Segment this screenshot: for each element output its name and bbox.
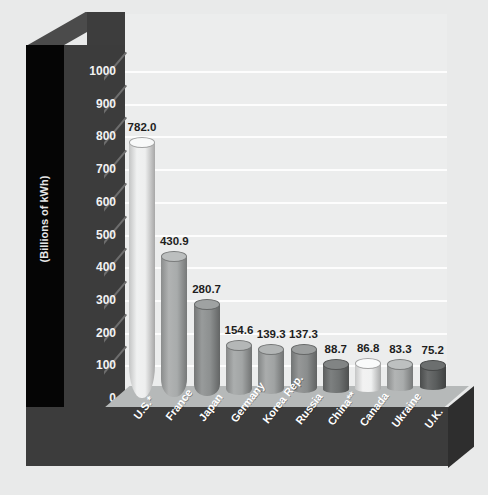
bar-ukraine[interactable]: 83.3 xyxy=(387,364,413,391)
bar-value-label: 280.7 xyxy=(192,283,221,295)
bar-body xyxy=(226,345,252,396)
gridline xyxy=(125,202,447,204)
y-tick-label: 800 xyxy=(64,129,122,143)
bar-top-ellipse xyxy=(258,344,284,355)
y-tick-label: 200 xyxy=(64,326,122,340)
y-tick-label: 1000 xyxy=(64,64,122,78)
bar-top-ellipse xyxy=(323,359,349,370)
bar-body xyxy=(129,142,155,398)
y-tick-label: 700 xyxy=(64,162,122,176)
y-tick-label: 900 xyxy=(64,97,122,111)
bar-value-label: 137.3 xyxy=(289,328,318,340)
bar-japan[interactable]: 280.7 xyxy=(194,304,220,396)
y-tick-label: 500 xyxy=(64,228,122,242)
chart-page: (Billions of kWh) 1000900800700600500400… xyxy=(0,0,488,495)
bar-value-label: 430.9 xyxy=(160,235,189,247)
bar-value-label: 154.6 xyxy=(225,324,254,336)
gridline xyxy=(125,169,447,171)
bar-value-label: 139.3 xyxy=(257,328,286,340)
bar-uk[interactable]: 75.2 xyxy=(420,365,446,390)
bar-value-label: 88.7 xyxy=(325,343,347,355)
bar-top-ellipse xyxy=(226,340,252,351)
gridline xyxy=(125,104,447,106)
bar-value-label: 86.8 xyxy=(357,342,379,354)
y-tick-label: 600 xyxy=(64,195,122,209)
bar-value-label: 75.2 xyxy=(421,344,443,356)
bar-top-ellipse xyxy=(291,344,317,355)
y-tick-label: 100 xyxy=(64,358,122,372)
pillar-top-face-inner xyxy=(87,12,125,46)
bar-us[interactable]: 782.0 xyxy=(129,142,155,398)
bar-germany[interactable]: 154.6 xyxy=(226,345,252,396)
bar-body xyxy=(161,256,187,397)
gridline xyxy=(125,71,447,73)
y-axis-title: (Billions of kWh) xyxy=(38,149,50,289)
y-tick-label: 300 xyxy=(64,293,122,307)
bar-chart-3d: (Billions of kWh) 1000900800700600500400… xyxy=(8,6,474,466)
bar-top-ellipse xyxy=(387,359,413,370)
bar-value-label: 782.0 xyxy=(128,121,157,133)
y-tick-label: 400 xyxy=(64,260,122,274)
bar-value-label: 83.3 xyxy=(389,343,411,355)
bar-canada[interactable]: 86.8 xyxy=(355,363,381,391)
bar-france[interactable]: 430.9 xyxy=(161,256,187,397)
y-axis-pillar: (Billions of kWh) xyxy=(26,45,64,433)
gridline xyxy=(125,136,447,138)
bar-body xyxy=(194,304,220,396)
bar-china[interactable]: 88.7 xyxy=(323,364,349,393)
